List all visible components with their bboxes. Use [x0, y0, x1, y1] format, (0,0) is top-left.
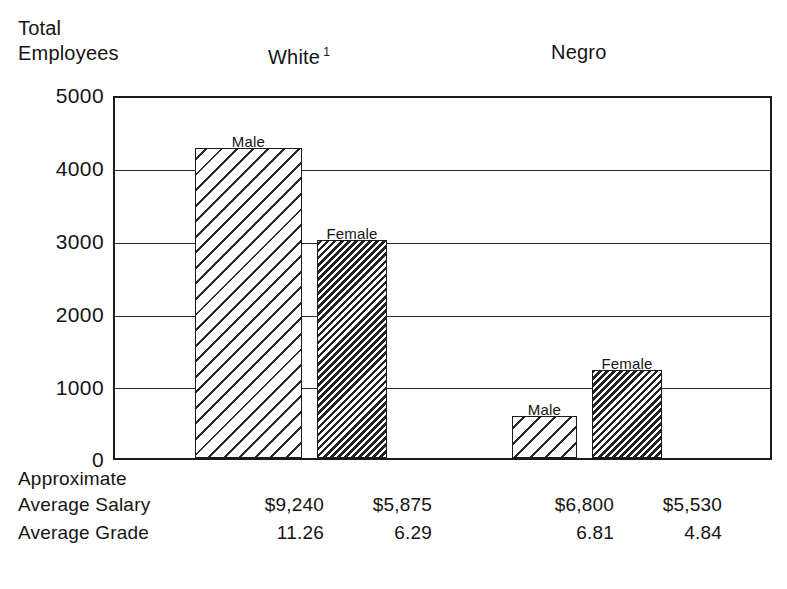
clipped-mark-left: ": [196, 578, 203, 586]
row-label-average-salary: Approximate Average Salary: [18, 466, 228, 518]
group-header-negro: Negro: [551, 40, 606, 64]
table-row-average-salary: Approximate Average Salary $9,240 $5,875…: [18, 466, 770, 520]
bar-caption-white-male: Male: [195, 134, 302, 150]
bar-white-female: [317, 240, 387, 458]
cell-grade-white-male: 11.26: [214, 522, 324, 544]
y-tick-4000: 4000: [4, 158, 104, 179]
group-header-white: White1: [268, 40, 330, 69]
y-tick-2000: 2000: [4, 304, 104, 325]
clipped-bottom-row: " ": [0, 578, 787, 589]
clipped-mark-right: ": [396, 578, 403, 586]
cell-salary-negro-female: $5,530: [614, 494, 722, 516]
cell-grade-white-female: 6.29: [324, 522, 432, 544]
y-tick-3000: 3000: [4, 231, 104, 252]
bar-chart-figure: Total Employees White1 Negro 5000 4000 3…: [0, 0, 787, 589]
row-label-average-salary-line1: Approximate: [18, 466, 228, 492]
bar-negro-female: [592, 370, 662, 458]
group-header-white-footnote-marker: 1: [323, 45, 330, 59]
row-label-average-grade: Average Grade: [18, 520, 228, 546]
y-axis-tick-labels: 5000 4000 3000 2000 1000 0: [0, 96, 104, 460]
cell-salary-white-male: $9,240: [214, 494, 324, 516]
y-axis-title-line2: Employees: [18, 41, 158, 66]
row-label-average-salary-line2: Average Salary: [18, 492, 228, 518]
group-header-white-label: White: [268, 46, 320, 68]
y-axis-title: Total Employees: [18, 16, 158, 66]
bar-white-male: [195, 148, 302, 458]
y-tick-1000: 1000: [4, 377, 104, 398]
bar-caption-negro-female: Female: [584, 356, 670, 372]
plot-area: Male Female Male Female: [113, 96, 772, 460]
bar-caption-white-female: Female: [309, 226, 395, 242]
cell-grade-negro-male: 6.81: [504, 522, 614, 544]
bar-caption-negro-male: Male: [509, 402, 580, 418]
cell-salary-negro-male: $6,800: [504, 494, 614, 516]
bar-negro-male: [512, 416, 577, 458]
table-row-average-grade: Average Grade 11.26 6.29 6.81 4.84: [18, 520, 770, 551]
summary-data-table: Approximate Average Salary $9,240 $5,875…: [18, 466, 770, 551]
y-axis-title-line1: Total: [18, 16, 158, 41]
cell-grade-negro-female: 4.84: [614, 522, 722, 544]
y-tick-5000: 5000: [4, 85, 104, 106]
cell-salary-white-female: $5,875: [324, 494, 432, 516]
